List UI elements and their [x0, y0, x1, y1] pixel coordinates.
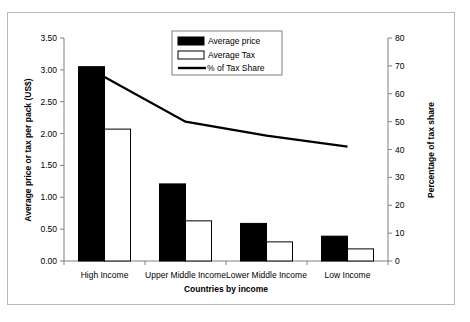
bar-average-price — [241, 223, 267, 261]
right-axis-tick-label: 60 — [395, 89, 405, 99]
right-axis-tick-label: 10 — [395, 228, 405, 238]
left-axis-ticks: 0.000.501.001.502.002.503.003.50 — [40, 33, 64, 266]
left-axis-tick-label: 3.50 — [40, 33, 57, 43]
bar-average-tax — [186, 221, 212, 261]
right-axis-tick-label: 40 — [395, 145, 405, 155]
left-axis-tick-label: 0.00 — [40, 256, 57, 266]
category-label: Lower Middle Income — [226, 270, 307, 280]
chart-legend: Average price Average Tax % of Tax Share — [172, 31, 282, 75]
category-tick-marks — [64, 261, 388, 265]
bar-average-price — [160, 184, 186, 261]
bar-average-price — [79, 67, 105, 261]
right-axis-tick-label: 20 — [395, 200, 405, 210]
legend-label-average-tax: Average Tax — [208, 50, 256, 60]
legend-swatch-average-tax — [178, 51, 204, 59]
left-axis-tick-label: 1.00 — [40, 192, 57, 202]
legend-label-tax-share: % of Tax Share — [207, 63, 265, 73]
category-label: Low Income — [325, 270, 371, 280]
left-axis-tick-label: 0.50 — [40, 224, 57, 234]
left-axis-tick-label: 2.50 — [40, 97, 57, 107]
left-axis-tick-label: 2.00 — [40, 129, 57, 139]
left-axis-tick-label: 1.50 — [40, 160, 57, 170]
category-labels: High IncomeUpper Middle IncomeLower Midd… — [81, 270, 371, 280]
right-axis-tick-label: 80 — [395, 33, 405, 43]
legend-swatch-average-price — [178, 37, 204, 45]
right-axis-tick-label: 50 — [395, 117, 405, 127]
category-label: High Income — [81, 270, 129, 280]
bar-average-tax — [348, 249, 374, 261]
right-axis-tick-label: 0 — [395, 256, 400, 266]
right-axis-title: Percentage of tax share — [426, 102, 436, 198]
bar-average-tax — [105, 129, 131, 261]
right-axis-tick-label: 30 — [395, 172, 405, 182]
bar-average-price — [322, 236, 348, 261]
bar-average-tax — [267, 242, 293, 261]
legend-label-average-price: Average price — [208, 36, 261, 46]
right-axis-tick-label: 70 — [395, 61, 405, 71]
left-axis-title: Average price or tax per pack (US$) — [23, 78, 33, 221]
right-axis-ticks: 01020304050607080 — [388, 33, 405, 266]
left-axis-tick-label: 3.00 — [40, 65, 57, 75]
x-axis-title: Countries by income — [184, 284, 268, 294]
category-label: Upper Middle Income — [145, 270, 226, 280]
bar-line-combo-chart: 0.000.501.001.502.002.503.003.50 0102030… — [0, 0, 470, 322]
